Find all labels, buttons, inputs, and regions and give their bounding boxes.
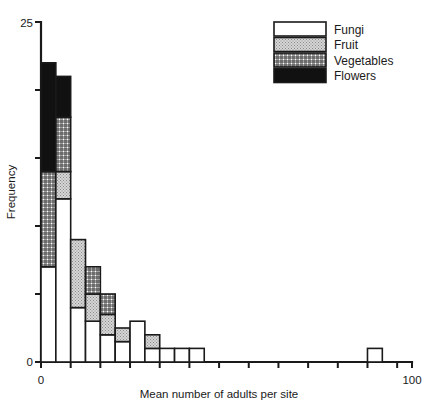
bar-segment — [41, 63, 56, 172]
bar-segment — [160, 348, 175, 362]
y-axis-title: Frequency — [5, 165, 17, 220]
legend-swatch-fungi — [274, 22, 326, 36]
bar-segment — [86, 321, 101, 362]
legend-label-flowers: Flowers — [334, 69, 376, 83]
bar-segment — [145, 348, 160, 362]
legend-swatch-vegetables — [274, 53, 326, 67]
legend-label-fungi: Fungi — [334, 23, 364, 37]
bar-segment — [100, 294, 115, 314]
histogram-chart: FungiFruitVegetablesFlowers Frequency Me… — [0, 0, 435, 413]
chart-bars — [41, 63, 382, 362]
y-axis-min-label: 0 — [27, 356, 33, 368]
bar-segment — [56, 199, 71, 362]
bar-segment — [56, 76, 71, 117]
x-axis-min-label: 0 — [38, 374, 44, 386]
bar-segment — [189, 348, 204, 362]
bar-segment — [115, 328, 130, 342]
bar-segment — [56, 117, 71, 171]
bar-segment — [71, 308, 86, 362]
bar-segment — [41, 267, 56, 362]
y-axis-max-label: 25 — [20, 17, 33, 29]
bar-segment — [71, 240, 86, 308]
bar-segment — [130, 321, 145, 362]
bar-segment — [41, 172, 56, 267]
bar-segment — [86, 294, 101, 321]
bar-segment — [56, 172, 71, 199]
bar-segment — [100, 314, 115, 334]
chart-legend: FungiFruitVegetablesFlowers — [274, 22, 393, 83]
chart-container: FungiFruitVegetablesFlowers Frequency Me… — [0, 0, 435, 413]
x-axis-max-label: 100 — [402, 374, 421, 386]
bar-segment — [145, 335, 160, 349]
x-axis-title: Mean number of adults per site — [140, 388, 299, 400]
bar-segment — [115, 342, 130, 362]
bar-segment — [367, 348, 382, 362]
bar-segment — [100, 335, 115, 362]
bar-segment — [86, 267, 101, 294]
legend-label-vegetables: Vegetables — [334, 54, 393, 68]
legend-label-fruit: Fruit — [334, 38, 359, 52]
bar-segment — [175, 348, 190, 362]
legend-swatch-flowers — [274, 69, 326, 83]
legend-swatch-fruit — [274, 38, 326, 52]
